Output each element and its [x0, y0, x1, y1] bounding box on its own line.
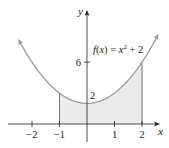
- function-label-rhs: + 2: [127, 44, 143, 55]
- x-tick-label: −2: [26, 129, 37, 140]
- shaded-area: [60, 62, 143, 124]
- function-graph: −2−112 26 x y f(x) = x2 + 2: [0, 0, 169, 148]
- x-tick-label: 2: [139, 129, 144, 140]
- y-axis-label: y: [77, 5, 83, 17]
- y-tick-label: 6: [76, 57, 81, 68]
- function-label: f(x) = x2 + 2: [93, 43, 143, 56]
- x-tick-label: −1: [54, 129, 65, 140]
- y-tick-label: 2: [90, 90, 95, 101]
- x-axis-label: x: [157, 125, 163, 137]
- x-tick-label: 1: [112, 129, 117, 140]
- x-tick-labels: −2−112: [26, 129, 144, 140]
- y-tick-labels: 26: [76, 57, 96, 101]
